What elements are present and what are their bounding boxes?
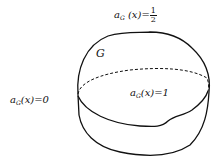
region-symbol: G [96, 48, 105, 59]
label-left: aG(x)=0 [10, 95, 49, 106]
fraction-half: 12 [150, 7, 157, 24]
label-left-x: (x)=0 [21, 94, 49, 105]
label-top: aG (x)=12 [114, 7, 157, 24]
label-inside-x: (x)=1 [141, 87, 169, 98]
diagram-canvas [0, 0, 221, 166]
label-top-x: (x)= [128, 9, 150, 20]
label-inside: aG(x)=1 [130, 88, 169, 99]
fraction-den: 2 [150, 16, 157, 24]
label-top-sub: G [120, 14, 125, 21]
